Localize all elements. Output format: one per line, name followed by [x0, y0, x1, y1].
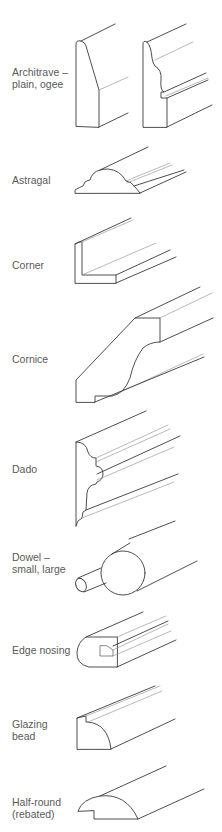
astragal-drawing — [75, 147, 186, 193]
architrave-plain-drawing — [76, 24, 128, 127]
half-round-drawing — [78, 766, 204, 819]
glazing-bead-drawing — [77, 686, 175, 749]
cornice-drawing — [76, 287, 213, 402]
dado-drawing — [76, 411, 180, 539]
architrave-ogee-drawing — [143, 24, 212, 127]
dowel-drawing — [74, 543, 197, 595]
corner-drawing — [75, 218, 176, 283]
mouldings-illustration — [0, 0, 222, 832]
edge-nosing-drawing — [77, 612, 176, 667]
